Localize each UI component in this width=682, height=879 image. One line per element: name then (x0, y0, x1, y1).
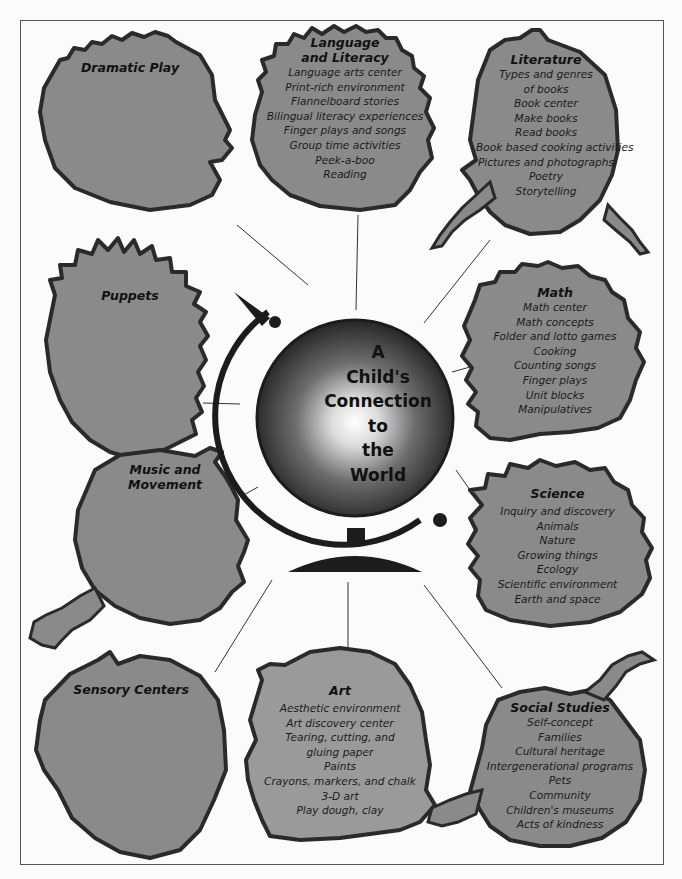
title-line: to (318, 414, 438, 439)
list-item: Self-concept (485, 715, 635, 730)
node-title: Language (252, 35, 438, 50)
list-item: Aesthetic environment (255, 701, 425, 716)
title-line: Child's (318, 365, 438, 390)
list-item: Book based cooking activities (476, 140, 616, 155)
node-title: and Literacy (252, 50, 438, 65)
list-item: Print-rich environment (252, 80, 438, 95)
node-sensory-centers: Sensory Centers (66, 682, 196, 697)
list-item: Scientific environment (480, 577, 635, 592)
list-item: Types and genres (476, 67, 616, 82)
node-social-studies: Social Studies Self-concept Families Cul… (485, 700, 635, 832)
node-title: Math (480, 285, 630, 300)
list-item: Math center (480, 300, 630, 315)
node-language-literacy: Language and Literacy Language arts cent… (252, 35, 438, 182)
list-item: Crayons, markers, and chalk (255, 774, 425, 789)
ponytail (30, 588, 104, 648)
node-literature: Literature Types and genres of books Boo… (476, 52, 616, 198)
list-item: Counting songs (480, 358, 630, 373)
node-title: Literature (476, 52, 616, 67)
head-dramatic-play (40, 32, 232, 210)
list-item: Community (485, 788, 635, 803)
list-item: Acts of kindness (485, 817, 635, 832)
title-line: Connection (318, 389, 438, 414)
list-item: Inquiry and discovery (480, 504, 635, 519)
list-item: Cultural heritage (485, 744, 635, 759)
node-title: Movement (115, 477, 215, 492)
node-science: Science Inquiry and discovery Animals Na… (480, 486, 635, 606)
node-title: Puppets (80, 288, 180, 303)
list-item: 3-D art (255, 789, 425, 804)
central-title: A Child's Connection to the World (318, 340, 438, 487)
head-puppets (46, 238, 208, 458)
list-item: Growing things (480, 548, 635, 563)
list-item: Art discovery center (255, 716, 425, 731)
node-title: Music and (115, 462, 215, 477)
node-title: Dramatic Play (70, 60, 190, 75)
node-title: Art (255, 683, 425, 698)
title-line: the (318, 438, 438, 463)
node-title: Social Studies (485, 700, 635, 715)
pigtail-top (585, 652, 654, 700)
list-item: Unit blocks (480, 388, 630, 403)
list-item: Children's museums (485, 803, 635, 818)
list-item: Play dough, clay (255, 803, 425, 818)
list-item: Bilingual literacy experiences (252, 109, 438, 124)
list-item: Math concepts (480, 315, 630, 330)
list-item: Pets (485, 773, 635, 788)
list-item: Folder and lotto games (480, 329, 630, 344)
list-item: Manipulatives (480, 402, 630, 417)
title-line: World (318, 463, 438, 488)
list-item: Book center (476, 96, 616, 111)
list-item: Intergenerational programs (485, 759, 635, 774)
node-music-movement: Music and Movement (115, 462, 215, 492)
node-title: Science (480, 486, 635, 501)
list-item: Read books (476, 125, 616, 140)
list-item: Paints (255, 759, 425, 774)
list-item: Cooking (480, 344, 630, 359)
list-item: Families (485, 730, 635, 745)
node-math: Math Math center Math concepts Folder an… (480, 285, 630, 417)
list-item: of books (476, 82, 616, 97)
list-item: Pictures and photographs (476, 155, 616, 170)
list-item: Tearing, cutting, and (255, 730, 425, 745)
list-item: Flannelboard stories (252, 94, 438, 109)
list-item: Storytelling (476, 184, 616, 199)
list-item: Poetry (476, 169, 616, 184)
list-item: Nature (480, 533, 635, 548)
node-dramatic-play: Dramatic Play (70, 60, 190, 75)
list-item: gluing paper (255, 745, 425, 760)
pigtail-left (428, 790, 482, 826)
list-item: Earth and space (480, 592, 635, 607)
list-item: Language arts center (252, 65, 438, 80)
list-item: Finger plays (480, 373, 630, 388)
node-title: Sensory Centers (66, 682, 196, 697)
list-item: Finger plays and songs (252, 123, 438, 138)
list-item: Reading (252, 167, 438, 182)
braid-right (604, 205, 648, 254)
list-item: Ecology (480, 562, 635, 577)
list-item: Animals (480, 519, 635, 534)
list-item: Make books (476, 111, 616, 126)
list-item: Peek-a-boo (252, 153, 438, 168)
list-item: Group time activities (252, 138, 438, 153)
node-art: Art Aesthetic environment Art discovery … (255, 683, 425, 818)
title-line: A (318, 340, 438, 365)
node-puppets: Puppets (80, 288, 180, 303)
